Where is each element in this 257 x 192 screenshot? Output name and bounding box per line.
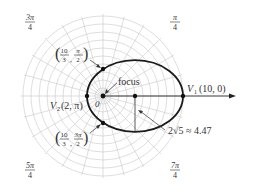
semi-minor-label: 2√5 ≈ 4.47 xyxy=(168,125,211,136)
v1-coords: (10, 0) xyxy=(199,83,226,95)
label-pi2-den: 3 xyxy=(62,56,66,64)
pole-point xyxy=(101,94,106,99)
point-p_3pi2 xyxy=(101,121,105,125)
grid-radial xyxy=(103,38,161,96)
grid-radial xyxy=(45,38,103,96)
semi-minor-leader xyxy=(140,111,165,130)
polar-diagram: 3π4π45π47π40focusV1(10, 0)V2(2, π)(103,π… xyxy=(0,0,257,192)
angle-label-a5pi4-num: 5π xyxy=(26,161,35,170)
grid-radial xyxy=(103,96,161,154)
label-pi2-num: 10 xyxy=(61,47,69,55)
angle-label-a3pi4-num: 3π xyxy=(25,13,35,22)
label-pi2-rparen: ) xyxy=(83,45,88,63)
arrow-head-icon xyxy=(96,124,101,129)
pole-label: 0 xyxy=(95,99,100,109)
label-3pi2-rparen: ) xyxy=(83,129,88,147)
point-p_pi2 xyxy=(101,67,105,71)
angle-label-a7pi4-den: 4 xyxy=(173,171,177,180)
angle-label-a5pi4-den: 4 xyxy=(28,171,32,180)
point-V2 xyxy=(85,94,89,98)
label-3pi2-num: 10 xyxy=(61,131,69,139)
angle-label-a7pi4-num: 7π xyxy=(171,161,180,170)
v2-sub: 2 xyxy=(57,106,60,112)
label-pi2-angle-den: 2 xyxy=(76,56,80,64)
angle-label-a3pi4-den: 4 xyxy=(28,23,32,32)
v1-sub: 1 xyxy=(194,89,197,95)
label-pi2-comma: , xyxy=(70,55,72,64)
label-3pi2-angle-num: 3π xyxy=(73,131,82,139)
axis-arrow-icon xyxy=(229,94,236,99)
label-pi2-angle-num: π xyxy=(76,47,80,55)
angle-label-api4-den: 4 xyxy=(173,23,177,32)
focus-label: focus xyxy=(118,76,140,87)
label-3pi2-comma: , xyxy=(70,139,72,148)
v2-coords: (2, π) xyxy=(61,100,83,112)
angle-label-api4-num: π xyxy=(173,13,178,22)
point-V1 xyxy=(181,94,185,98)
label-3pi2-angle-den: 2 xyxy=(76,140,80,148)
polar-axis xyxy=(103,94,236,99)
point-center xyxy=(133,94,137,98)
label-3pi2-den: 3 xyxy=(62,140,66,148)
